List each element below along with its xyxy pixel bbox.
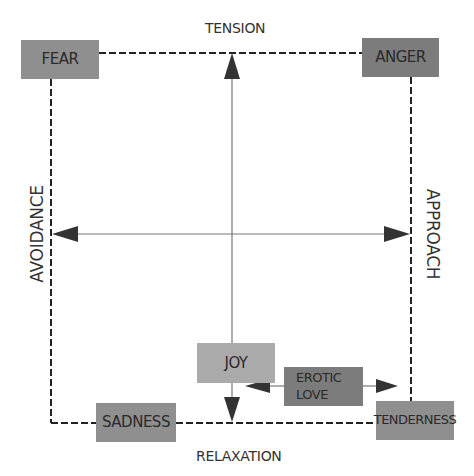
- emotion-diagram: TENSION RELAXATION AVOIDANCE APPROACH FE…: [0, 0, 474, 476]
- node-fear: FEAR: [21, 40, 99, 79]
- node-erotic-love: EROTIC LOVE: [284, 367, 363, 406]
- arrow-left-icon: [52, 226, 78, 242]
- label-approach: APPROACH: [423, 179, 443, 289]
- arrow-right-icon: [384, 226, 410, 242]
- label-tension: TENSION: [205, 20, 265, 36]
- arrow-down-icon: [224, 397, 240, 422]
- node-anger: ANGER: [362, 38, 439, 77]
- label-relaxation: RELAXATION: [196, 448, 282, 464]
- label-avoidance: AVOIDANCE: [27, 179, 47, 289]
- node-joy: JOY: [197, 343, 275, 383]
- arrow-right-small-icon: [376, 379, 398, 393]
- node-tenderness: TENDERNESS: [376, 401, 454, 440]
- arrow-up-icon: [224, 53, 240, 79]
- node-sadness: SADNESS: [96, 403, 176, 442]
